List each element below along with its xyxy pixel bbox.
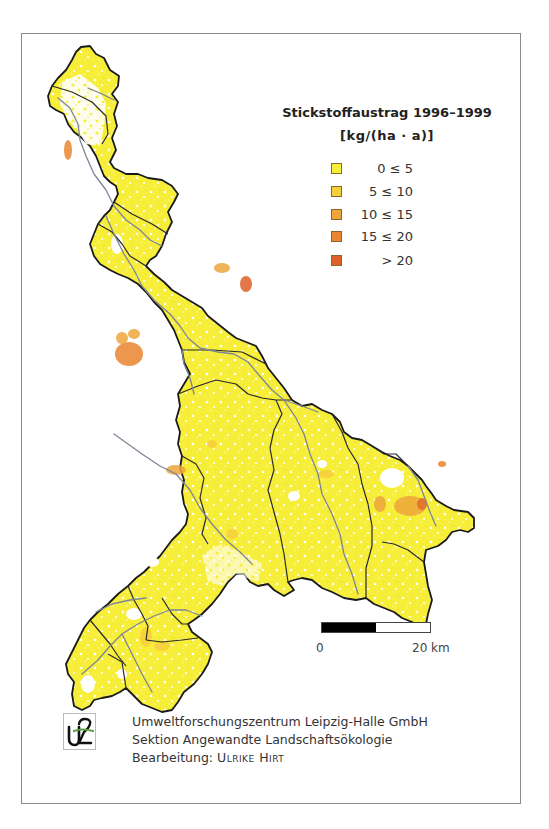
credits-author-prefix: Bearbeitung: <box>132 750 217 765</box>
credits-department: Sektion Angewandte Landschaftsökologie <box>132 731 428 749</box>
legend-swatch <box>331 255 342 266</box>
legend-swatch <box>331 186 342 197</box>
ufz-logo <box>63 713 96 750</box>
ufz-logo-icon <box>64 714 95 749</box>
legend-label: > 20 <box>349 253 413 268</box>
scale-bar-black-segment <box>322 623 376 632</box>
map-frame: Stickstoffaustrag 1996–1999 [kg/(ha · a)… <box>21 33 521 804</box>
legend-item: 10 ≤ 15 <box>331 207 461 223</box>
legend-item: 0 ≤ 5 <box>331 161 461 177</box>
credits-author-line: Bearbeitung: Ulrike Hirt <box>132 749 428 767</box>
legend-label: 10 ≤ 15 <box>349 207 413 222</box>
legend-swatch <box>331 231 342 242</box>
scale-label-start: 0 <box>316 641 324 655</box>
legend-item: 5 ≤ 10 <box>331 184 461 200</box>
catchment-map <box>22 34 522 805</box>
legend-label: 15 ≤ 20 <box>349 229 413 244</box>
credits-block: Umweltforschungszentrum Leipzig-Halle Gm… <box>132 713 428 767</box>
scale-bar <box>321 622 431 633</box>
scale-label-end: 20 km <box>412 641 450 655</box>
credits-institution: Umweltforschungszentrum Leipzig-Halle Gm… <box>132 713 428 731</box>
legend-swatch <box>331 209 342 220</box>
credits-author-name: Ulrike Hirt <box>217 750 284 765</box>
legend-title: Stickstoffaustrag 1996–1999 <box>262 105 512 120</box>
legend-label: 0 ≤ 5 <box>349 161 413 176</box>
legend-item: > 20 <box>331 253 461 269</box>
catchment-area <box>48 46 474 712</box>
legend-swatch <box>331 163 342 174</box>
legend-unit: [kg/(ha · a)] <box>262 128 512 143</box>
legend-label: 5 ≤ 10 <box>349 184 413 199</box>
legend-item: 15 ≤ 20 <box>331 229 461 245</box>
